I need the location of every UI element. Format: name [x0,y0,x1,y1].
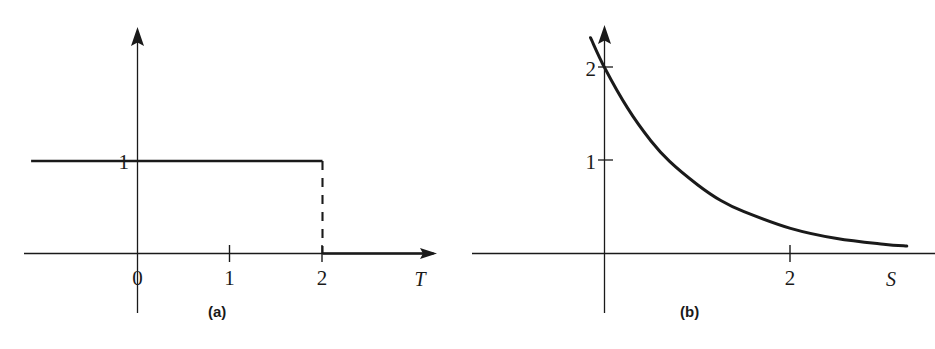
panel-a-caption: (a) [208,303,226,320]
y-tick-label-2: 2 [586,57,597,81]
panel-a: 0 1 2 1 T (a) [0,0,467,349]
figure-container: 0 1 2 1 T (a) 2 1 2 [0,0,935,349]
x-tick-label-2: 2 [785,266,796,290]
panel-b: 2 1 2 S (b) [467,0,935,349]
y-tick-label-1: 1 [586,150,597,174]
y-tick-label-1: 1 [119,150,130,174]
x-axis-variable-label: T [414,268,427,290]
panel-b-plot: 2 1 2 S [467,0,935,349]
x-axis-variable-label: S [886,268,896,290]
x-tick-label-1: 1 [224,266,235,290]
x-tick-label-2: 2 [317,266,328,290]
exponential-decay-curve [591,38,907,246]
panel-a-plot: 0 1 2 1 T [0,0,467,349]
x-tick-label-0: 0 [132,266,143,290]
panel-b-caption: (b) [680,303,699,320]
